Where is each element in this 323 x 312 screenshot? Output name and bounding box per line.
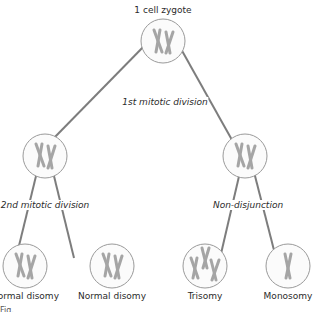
nondisjunction-label: Non-disjunction [212, 200, 284, 210]
left-daughter-cell [23, 134, 67, 178]
outcome-cell-normal-disomy-2 [90, 244, 134, 288]
outcome-label-normal-disomy-1: Normal disomy [0, 291, 59, 301]
zygote-label: 1 cell zygote [134, 5, 191, 15]
outcome-label-monosomy: Monosomy [264, 291, 313, 301]
diagram-canvas [0, 0, 323, 312]
second-division-label: 2nd mitotic division [0, 200, 90, 210]
right-daughter-cell [223, 134, 267, 178]
outcome-cell-trisomy [183, 244, 227, 288]
outcome-label-normal-disomy-2: Normal disomy [78, 291, 146, 301]
outcome-cell-normal-disomy-1 [3, 244, 47, 288]
figure-caption: Fig. [0, 304, 14, 312]
first-division-label: 1st mitotic division [121, 97, 208, 107]
zygote-cell [141, 19, 185, 63]
outcome-label-trisomy: Trisomy [188, 291, 223, 301]
outcome-cell-monosomy [266, 244, 310, 288]
